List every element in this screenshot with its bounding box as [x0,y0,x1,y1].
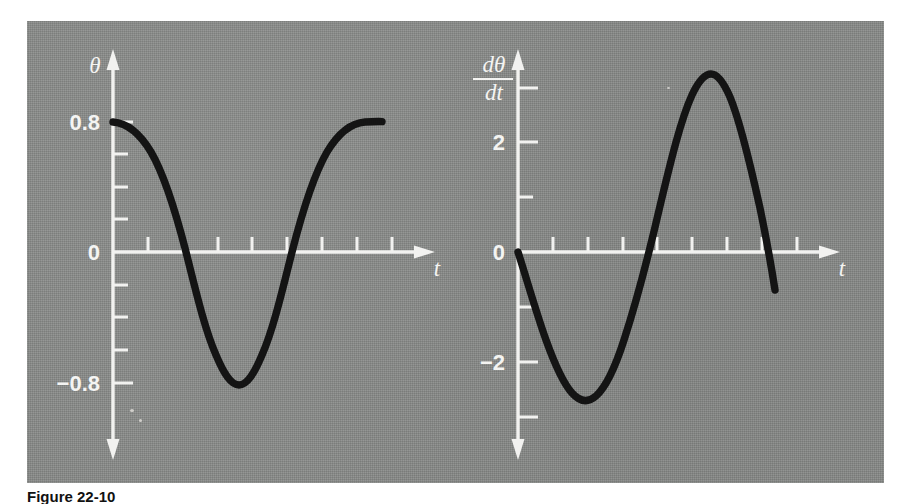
dtheta-y-axis-label: dθ dt [473,52,513,105]
dtheta-label-denominator: dt [485,80,504,105]
dtheta-x-ticks [553,237,797,252]
x-axis-arrow-right [819,246,840,259]
figure-caption: Figure 22-10 [27,487,627,504]
dtheta-dt-panel: dθ dt t 2 0 −2 [0,0,899,504]
dtheta-tick-label-2: 2 [493,130,505,155]
dtheta-tick-label-neg2: −2 [480,350,505,375]
dtheta-x-axis [518,246,840,259]
dtheta-label-numerator: dθ [483,52,506,77]
y-axis-arrow-down [512,439,525,460]
dtheta-x-axis-label: t [839,256,846,281]
dtheta-dt-curve [518,74,775,401]
y-axis-arrow-up [512,49,525,70]
figure-root: θ t 0.8 0 −0.8 [0,0,899,504]
dtheta-tick-label-0: 0 [493,240,505,265]
